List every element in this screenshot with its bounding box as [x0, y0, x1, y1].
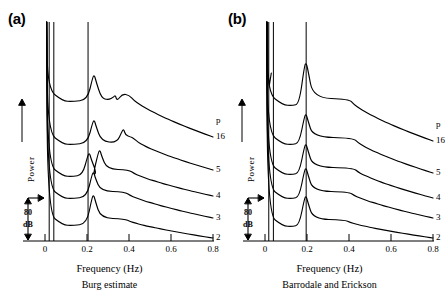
scale-bar-value: 80 — [19, 208, 37, 217]
x-tick-label-4: 0.8 — [422, 244, 444, 254]
spectrum-curve-p3 — [267, 22, 433, 218]
scale-bar-arrow-up — [245, 198, 251, 204]
x-tick-label-0: 0 — [254, 244, 276, 254]
x-tick-label-3: 0.6 — [380, 244, 402, 254]
scale-bar-unit: dB — [239, 220, 257, 229]
spectra-plot-b — [220, 0, 439, 298]
y-axis-label-b: Power — [246, 157, 256, 183]
edge-spike-p16 — [268, 22, 272, 85]
scale-bar-arrow-down — [245, 235, 251, 241]
spectrum-curve-p4 — [47, 22, 213, 196]
spectra-plot-a — [0, 0, 219, 298]
spectrum-curve-p16 — [267, 22, 433, 141]
y-axis-arrow-head — [239, 99, 245, 105]
order-label-p5: 5 — [436, 167, 441, 177]
x-tick-label-0: 0 — [34, 244, 56, 254]
scale-bar-arrow-up — [25, 198, 31, 204]
order-header-p: p — [436, 119, 441, 129]
scale-bar-tie-arrow — [259, 195, 265, 201]
panel-burg-estimate: (a) Power Frequency (Hz) Burg estimate 0… — [0, 0, 219, 298]
order-label-p2: 2 — [436, 232, 441, 242]
x-tick-label-1: 0.2 — [296, 244, 318, 254]
order-label-p3: 3 — [436, 212, 441, 222]
scale-bar-tie-arrow — [39, 195, 45, 201]
spectrum-curve-p2 — [47, 22, 213, 238]
panel-caption-b: Barrodale and Erickson — [220, 279, 439, 290]
spectrum-curve-p3 — [47, 22, 213, 218]
x-tick-label-2: 0.4 — [338, 244, 360, 254]
panel-caption-a: Burg estimate — [0, 279, 219, 290]
spectrum-curve-p2 — [267, 22, 433, 238]
scale-bar-value: 80 — [239, 208, 257, 217]
spectrum-curve-p4 — [267, 22, 433, 198]
panel-barrodale-erickson: (b) Power Frequency (Hz) Barrodale and E… — [220, 0, 439, 298]
scale-bar-arrow-down — [25, 235, 31, 241]
x-axis-title-a: Frequency (Hz) — [0, 263, 219, 274]
spectrum-curve-p16 — [47, 22, 213, 137]
spectrum-curve-p5 — [267, 22, 433, 173]
y-axis-label-a: Power — [26, 157, 36, 183]
scale-bar-unit: dB — [19, 220, 37, 229]
x-axis-title-b: Frequency (Hz) — [220, 263, 439, 274]
order-label-p16: 16 — [436, 135, 445, 145]
x-tick-label-2: 0.4 — [118, 244, 140, 254]
x-tick-label-1: 0.2 — [76, 244, 98, 254]
y-axis-arrow-head — [19, 99, 25, 105]
order-label-p4: 4 — [436, 192, 441, 202]
x-tick-label-3: 0.6 — [160, 244, 182, 254]
